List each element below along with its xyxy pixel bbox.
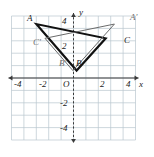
vertex-label-b-prime: B' bbox=[59, 59, 66, 68]
vertex-label-b: B bbox=[76, 59, 82, 68]
axis-tick-label: 2 bbox=[100, 80, 105, 89]
vertex-label-c-prime: C' bbox=[33, 38, 41, 47]
axis-arrow-left bbox=[9, 76, 13, 81]
axis-name-label-x: x bbox=[139, 80, 143, 89]
axis-tick-label: 4 bbox=[126, 80, 131, 89]
axis-tick-label: -4 bbox=[14, 80, 22, 89]
axis-arrow-down bbox=[71, 139, 76, 143]
vertex-label-c: C bbox=[124, 36, 130, 45]
axis-name-label-y: y bbox=[79, 8, 83, 17]
axis-tick-label: -2 bbox=[60, 99, 68, 108]
axis-tick-label: -4 bbox=[60, 124, 68, 133]
axis-arrow-up bbox=[71, 13, 76, 17]
axis-arrow-right bbox=[135, 76, 139, 81]
axis-tick-label: O bbox=[63, 80, 70, 89]
axis-tick-label: -2 bbox=[39, 80, 47, 89]
axis-tick-label: 4 bbox=[62, 17, 67, 26]
vertex-label-a-prime: A' bbox=[130, 13, 137, 22]
vertex-label-a: A bbox=[27, 14, 33, 23]
coordinate-plane-figure: -4-2O2442-2-4AC'B'BCA'yx bbox=[0, 0, 154, 157]
axis-tick-label: 2 bbox=[62, 42, 67, 51]
